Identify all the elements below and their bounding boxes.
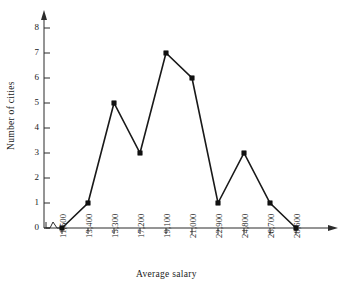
data-point-marker — [216, 201, 220, 205]
y-tick-label: 3 — [35, 147, 40, 157]
y-tick-marks — [44, 28, 50, 228]
data-point-marker — [138, 151, 142, 155]
y-tick-label: 2 — [35, 172, 40, 182]
data-point-marker — [164, 51, 168, 55]
x-tick-label: 19,100 — [162, 213, 172, 238]
y-axis-arrow-icon — [41, 10, 47, 20]
data-point-marker — [294, 226, 298, 230]
y-tick-label: 8 — [35, 22, 40, 32]
data-point-marker — [60, 226, 64, 230]
data-point-marker — [242, 151, 246, 155]
chart-figure: 0 1 2 3 4 5 6 7 8 11,500 13,400 — [0, 0, 345, 287]
data-point-marker — [112, 101, 116, 105]
y-tick-label: 4 — [35, 122, 40, 132]
x-tick-label: 13,400 — [84, 213, 94, 238]
y-tick-label: 0 — [35, 222, 40, 232]
frequency-polygon-chart: 0 1 2 3 4 5 6 7 8 11,500 13,400 — [0, 0, 345, 287]
x-axis-arrow-icon — [328, 225, 338, 231]
y-axis-title: Number of cities — [6, 81, 16, 150]
x-tick-label: 21,000 — [188, 213, 198, 238]
y-tick-labels: 0 1 2 3 4 5 6 7 8 — [35, 22, 40, 232]
data-markers — [60, 51, 298, 230]
y-axis — [41, 10, 47, 228]
x-axis-title: Average salary — [136, 269, 197, 279]
data-point-marker — [86, 201, 90, 205]
x-tick-labels: 11,500 13,400 15,300 17,200 19,100 21,00… — [58, 213, 302, 238]
y-tick-label: 5 — [35, 97, 40, 107]
data-point-marker — [190, 76, 194, 80]
x-tick-marks — [62, 228, 296, 234]
x-tick-label: 17,200 — [136, 213, 146, 238]
x-tick-label: 22,900 — [214, 213, 224, 238]
x-tick-label: 26,700 — [266, 213, 276, 238]
x-tick-label: 24,800 — [240, 213, 250, 238]
y-tick-label: 6 — [35, 72, 40, 82]
y-tick-label: 7 — [35, 47, 40, 57]
y-tick-label: 1 — [35, 197, 40, 207]
x-tick-label: 15,300 — [110, 213, 120, 238]
data-point-marker — [268, 201, 272, 205]
data-series-line — [62, 53, 296, 228]
